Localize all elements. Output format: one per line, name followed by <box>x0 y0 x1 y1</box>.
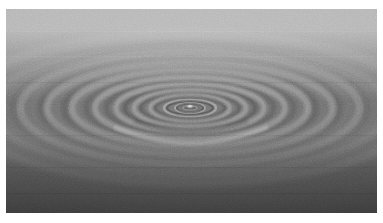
screenshot-canvas <box>0 0 383 223</box>
ripple-illustration <box>6 9 377 213</box>
droplet-impact-point <box>179 104 201 112</box>
droplet-core <box>188 105 191 107</box>
water-ripple-photograph <box>6 9 377 213</box>
